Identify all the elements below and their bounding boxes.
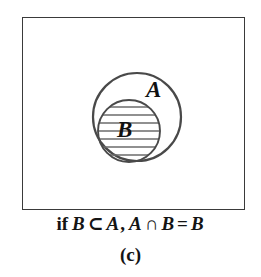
equals-operator-icon: =: [175, 213, 190, 234]
subset-operator-icon: ⊂: [86, 213, 106, 234]
caption-keyword-if: if: [56, 213, 71, 234]
caption-var-subset-right: A: [106, 213, 121, 234]
set-label-b: B: [117, 118, 132, 141]
set-label-a: A: [146, 78, 161, 101]
figure-caption: ifB⊂A,A∩B=B: [0, 214, 261, 235]
intersection-operator-icon: ∩: [143, 213, 161, 234]
caption-var-subset-left: B: [71, 213, 86, 234]
caption-var-intersect-left: A: [128, 213, 143, 234]
subfigure-label: (c): [0, 245, 261, 266]
caption-var-intersect-right: B: [160, 213, 175, 234]
circle-set-a: [93, 73, 181, 161]
venn-diagram-figure: A B ifB⊂A,A∩B=B (c): [0, 0, 261, 277]
caption-var-result: B: [190, 213, 205, 234]
caption-comma: ,: [120, 213, 128, 234]
